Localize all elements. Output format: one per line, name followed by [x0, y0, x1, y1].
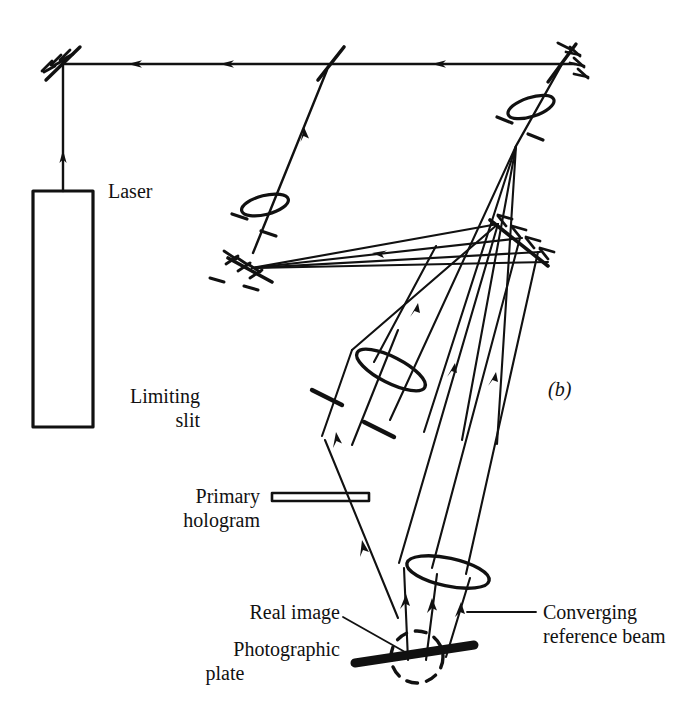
primary-hologram [272, 493, 369, 501]
object-beam-cone [322, 330, 398, 445]
beam-splitter-to-object-filter [253, 70, 327, 253]
beam-mirror-to-reference-filter [516, 64, 562, 146]
mirror-object-beam [210, 251, 272, 290]
label-photographic-plate-line1: Photographic [110, 638, 340, 662]
panel-label-b: (b) [548, 378, 571, 401]
label-real-image: Real image [150, 601, 340, 625]
beam-object-branch-2 [374, 246, 436, 362]
lens-reference-beam [404, 550, 492, 595]
ref-arrow-a [447, 363, 457, 377]
label-limiting-slit-line2: slit [108, 409, 200, 433]
ref-arrow-c [410, 303, 420, 317]
photographic-plate [355, 645, 474, 663]
label-photographic-plate-line2: plate [110, 662, 340, 686]
label-primary-hologram-line1: Primary [80, 485, 260, 509]
label-converging-reference-beam-line2: reference beam [543, 625, 666, 649]
label-converging-reference-beam-line1: Converging [543, 601, 637, 625]
ref-arrow-b [488, 372, 498, 386]
spatial-filter-reference [497, 91, 557, 140]
label-laser: Laser [108, 180, 152, 204]
laser-body [33, 191, 93, 427]
label-limiting-slit-line1: Limiting [108, 385, 200, 409]
holography-setup-figure: Laser Limiting slit Primary hologram Rea… [0, 0, 678, 725]
beam-object-to-lens [352, 224, 498, 350]
spatial-filter-object [232, 190, 291, 236]
conv-arrow-3 [455, 602, 465, 617]
slit-beam-arrow [333, 432, 342, 448]
leader-real-image [343, 617, 405, 652]
beam-through-hologram [325, 440, 398, 618]
label-primary-hologram-line2: hologram [80, 509, 260, 533]
